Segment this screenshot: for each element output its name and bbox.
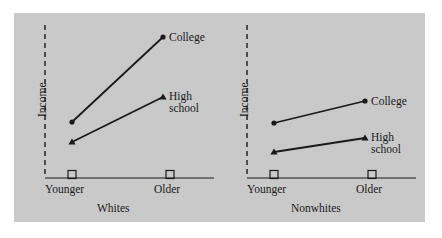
series-line-high-school bbox=[72, 97, 163, 142]
series-label-high-school-line1: High bbox=[169, 90, 192, 102]
tick-box-younger bbox=[68, 171, 76, 179]
series-line-college bbox=[72, 37, 163, 122]
series-label-high-school-line1: High bbox=[371, 131, 394, 143]
series-label-high-school-line2: school bbox=[371, 143, 401, 155]
tick-box-younger bbox=[270, 171, 278, 179]
tick-box-older bbox=[368, 171, 376, 179]
figure-container: Income College High school Younger Older… bbox=[0, 0, 442, 238]
x-tick-label-younger: Younger bbox=[247, 183, 286, 195]
series-line-college bbox=[274, 101, 365, 123]
series-label-college: College bbox=[169, 31, 205, 43]
x-axis-label-whites: Whites bbox=[97, 202, 130, 214]
x-axis-label-nonwhites: Nonwhites bbox=[291, 202, 341, 214]
marker-college-younger bbox=[271, 120, 276, 125]
marker-college-younger bbox=[69, 119, 74, 124]
series-line-high-school bbox=[274, 138, 365, 152]
series-label-college: College bbox=[371, 95, 407, 107]
chart-panel-whites: Income College High school Younger Older… bbox=[14, 13, 219, 222]
marker-high-school-older bbox=[159, 93, 166, 99]
x-tick-label-older: Older bbox=[154, 183, 180, 195]
x-tick-label-older: Older bbox=[356, 183, 382, 195]
y-axis-label-income: Income bbox=[36, 83, 48, 117]
y-axis-label-income: Income bbox=[238, 83, 250, 117]
x-tick-label-younger: Younger bbox=[45, 183, 84, 195]
chart-panel-nonwhites: Income College High school Younger Older… bbox=[228, 13, 433, 222]
marker-college-older bbox=[160, 34, 165, 39]
marker-college-older bbox=[362, 98, 367, 103]
series-label-high-school-line2: school bbox=[169, 102, 199, 114]
tick-box-older bbox=[166, 171, 174, 179]
